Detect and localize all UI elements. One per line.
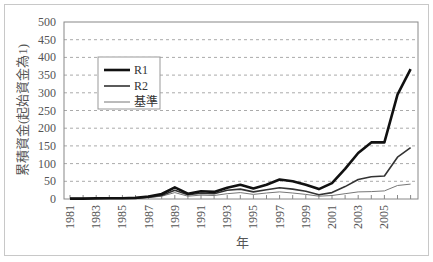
y-tick-label: 350 — [38, 68, 56, 82]
x-tick-label: 2003 — [351, 205, 365, 229]
legend-label: R1 — [134, 63, 148, 77]
x-tick-label: 1991 — [194, 205, 208, 229]
x-axis-ticks: 1981198319851987198919911993199519971999… — [63, 195, 411, 229]
x-tick-label: 1985 — [115, 205, 129, 229]
x-axis-title: 年 — [236, 235, 249, 250]
x-tick-label: 1981 — [63, 205, 77, 229]
legend: R1R2基準 — [98, 57, 160, 109]
x-tick-label: 1983 — [89, 205, 103, 229]
y-axis-title: 累積資金(起始資金為1) — [15, 44, 30, 176]
legend-label: R2 — [134, 79, 148, 93]
x-tick-label: 1989 — [168, 205, 182, 229]
y-tick-label: 100 — [38, 157, 56, 171]
y-tick-label: 50 — [44, 174, 56, 188]
x-tick-label: 1995 — [246, 205, 260, 229]
y-tick-label: 300 — [38, 86, 56, 100]
series-line-R2 — [70, 148, 411, 199]
x-tick-label: 1987 — [142, 205, 156, 229]
y-tick-label: 250 — [38, 104, 56, 118]
legend-label: 基準 — [134, 94, 158, 109]
y-tick-label: 0 — [50, 192, 56, 206]
x-tick-label: 2005 — [377, 205, 391, 229]
line-chart: 050100150200250300350400450500 198119831… — [0, 0, 433, 262]
y-tick-label: 500 — [38, 15, 56, 29]
y-tick-label: 150 — [38, 139, 56, 153]
x-tick-label: 1993 — [220, 205, 234, 229]
y-tick-label: 450 — [38, 33, 56, 47]
y-tick-label: 400 — [38, 50, 56, 64]
x-tick-label: 1999 — [299, 205, 313, 229]
x-tick-label: 1997 — [273, 205, 287, 229]
y-axis-ticks: 050100150200250300350400450500 — [38, 15, 56, 206]
y-tick-label: 200 — [38, 121, 56, 135]
x-tick-label: 2001 — [325, 205, 339, 229]
